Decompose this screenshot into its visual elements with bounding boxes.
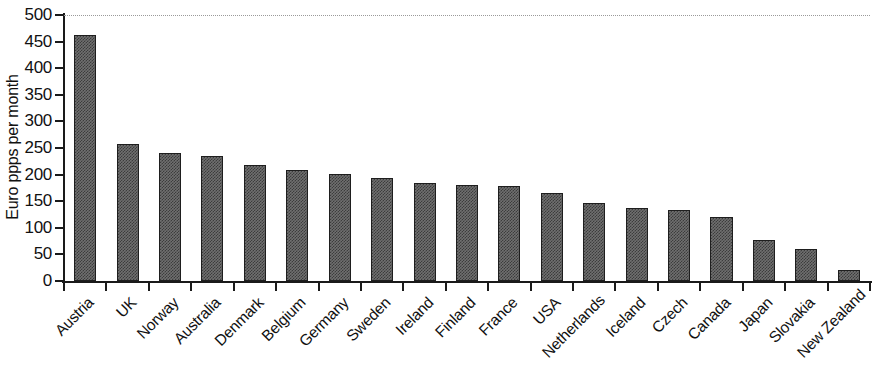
y-axis-tick bbox=[55, 120, 64, 122]
bar bbox=[838, 270, 860, 281]
x-axis-tick bbox=[699, 283, 701, 291]
y-axis-tick-label-text: 400 bbox=[6, 59, 52, 76]
y-axis-tick-label-text: 300 bbox=[6, 112, 52, 129]
y-axis-tick-label: 500 bbox=[0, 6, 52, 23]
x-axis-tick bbox=[360, 283, 362, 291]
x-axis-tick bbox=[105, 283, 107, 291]
y-axis-tick-label: 50 bbox=[0, 245, 52, 262]
bar bbox=[414, 183, 436, 281]
bar bbox=[795, 249, 817, 281]
bar bbox=[626, 208, 648, 281]
x-axis-tick bbox=[402, 283, 404, 291]
bar bbox=[541, 193, 563, 281]
bars-container bbox=[64, 15, 870, 281]
x-axis-tick bbox=[827, 283, 829, 291]
y-axis-tick bbox=[55, 94, 64, 96]
y-axis-tick-label-text: 250 bbox=[6, 139, 52, 156]
y-axis-tick-label: 450 bbox=[0, 33, 52, 50]
x-axis-tick bbox=[572, 283, 574, 291]
bar bbox=[74, 35, 96, 281]
y-axis-tick-label-text: 0 bbox=[6, 272, 52, 289]
bar bbox=[286, 170, 308, 281]
bar-chart: Euro ppps per month 05010015020025030035… bbox=[0, 0, 876, 372]
bar bbox=[329, 174, 351, 281]
y-axis-tick-label-text: 50 bbox=[6, 245, 52, 262]
x-axis-tick bbox=[445, 283, 447, 291]
x-axis-tick bbox=[148, 283, 150, 291]
x-axis-line bbox=[62, 281, 872, 283]
bar bbox=[753, 240, 775, 281]
y-axis-tick-label: 150 bbox=[0, 192, 52, 209]
y-axis-tick bbox=[55, 67, 64, 69]
bar bbox=[201, 156, 223, 281]
x-axis-tick bbox=[784, 283, 786, 291]
y-axis-tick-label: 0 bbox=[0, 272, 52, 289]
x-axis-tick bbox=[190, 283, 192, 291]
x-axis-tick bbox=[63, 283, 65, 291]
x-axis-tick bbox=[318, 283, 320, 291]
x-axis-tick bbox=[657, 283, 659, 291]
y-axis-tick bbox=[55, 200, 64, 202]
y-axis-tick-label: 250 bbox=[0, 139, 52, 156]
y-axis-tick-label-text: 500 bbox=[6, 6, 52, 23]
y-axis-tick-label-text: 350 bbox=[6, 86, 52, 103]
x-axis-tick bbox=[742, 283, 744, 291]
x-axis-tick bbox=[869, 283, 871, 291]
bar bbox=[456, 185, 478, 281]
y-axis-tick bbox=[55, 253, 64, 255]
bar bbox=[371, 178, 393, 281]
y-axis-tick bbox=[55, 227, 64, 229]
y-axis-tick-label: 350 bbox=[0, 86, 52, 103]
bar bbox=[244, 165, 266, 281]
y-axis-tick-label: 100 bbox=[0, 219, 52, 236]
y-axis-tick-label-text: 450 bbox=[6, 33, 52, 50]
bar bbox=[117, 144, 139, 281]
x-axis-tick bbox=[487, 283, 489, 291]
y-axis-tick bbox=[55, 147, 64, 149]
y-axis-tick bbox=[55, 280, 64, 282]
y-axis-tick-label: 400 bbox=[0, 59, 52, 76]
bar bbox=[583, 203, 605, 281]
y-axis-tick bbox=[55, 174, 64, 176]
x-axis-tick bbox=[530, 283, 532, 291]
bar bbox=[159, 153, 181, 281]
y-axis-tick-label: 200 bbox=[0, 166, 52, 183]
y-axis-tick-label-text: 200 bbox=[6, 166, 52, 183]
x-axis-tick bbox=[614, 283, 616, 291]
y-axis-tick bbox=[55, 14, 64, 16]
y-axis-tick-label-text: 100 bbox=[6, 219, 52, 236]
y-axis-tick bbox=[55, 41, 64, 43]
bar bbox=[710, 217, 732, 281]
bar bbox=[668, 210, 690, 281]
x-axis-tick bbox=[233, 283, 235, 291]
x-axis-tick bbox=[275, 283, 277, 291]
y-axis-tick-label-text: 150 bbox=[6, 192, 52, 209]
y-axis-tick-label: 300 bbox=[0, 112, 52, 129]
bar bbox=[498, 186, 520, 281]
